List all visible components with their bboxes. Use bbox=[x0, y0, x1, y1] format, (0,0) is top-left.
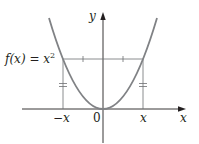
function-label: f(x) = x2 bbox=[4, 51, 55, 66]
tick-label-neg-x: −x bbox=[53, 111, 70, 125]
tick-label-pos-x: x bbox=[140, 111, 147, 125]
x-axis-label: x bbox=[180, 111, 187, 125]
tick-label-origin: 0 bbox=[93, 111, 101, 125]
y-axis-arrow-icon bbox=[100, 12, 105, 20]
even-function-diagram: f(x) = x2 y x −x 0 x bbox=[0, 0, 199, 144]
y-axis-label: y bbox=[88, 9, 96, 23]
